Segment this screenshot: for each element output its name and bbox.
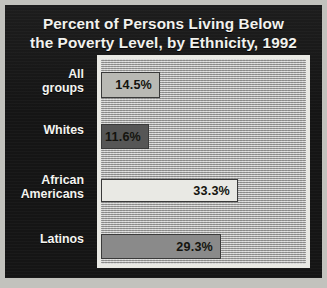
chart-title-line-2: the Poverty Level, by Ethnicity, 1992	[5, 33, 322, 52]
category-label-line-2: Americans	[0, 187, 84, 201]
chart-figure: Percent of Persons Living Below the Pove…	[0, 0, 327, 288]
chart-panel: Percent of Persons Living Below the Pove…	[5, 5, 322, 278]
bar-whites: 11.6%	[101, 124, 149, 149]
category-label-line-2: groups	[0, 81, 84, 95]
chart-title: Percent of Persons Living Below the Pove…	[5, 14, 322, 52]
category-label-line-1: African	[41, 173, 84, 187]
bar-african-americans: 33.3%	[101, 179, 238, 202]
category-label-line-1: Latinos	[40, 232, 84, 246]
plot-frame: 14.5% 11.6% 33.3% 29.3%	[97, 55, 310, 268]
category-label-latinos: Latinos	[0, 232, 84, 246]
category-label-line-1: All	[68, 67, 84, 81]
bar-value-label: 14.5%	[115, 78, 159, 92]
plot-area: 14.5% 11.6% 33.3% 29.3%	[101, 59, 306, 264]
bar-value-label: 11.6%	[105, 130, 148, 144]
bar-value-label: 29.3%	[176, 240, 220, 254]
chart-title-line-1: Percent of Persons Living Below	[5, 14, 322, 33]
category-label-all-groups: All groups	[0, 67, 84, 95]
bar-all-groups: 14.5%	[101, 72, 160, 98]
category-label-whites: Whites	[0, 123, 84, 137]
category-label-african-americans: African Americans	[0, 173, 84, 201]
bar-latinos: 29.3%	[101, 234, 221, 259]
bar-value-label: 33.3%	[193, 184, 237, 198]
category-label-line-1: Whites	[43, 123, 84, 137]
